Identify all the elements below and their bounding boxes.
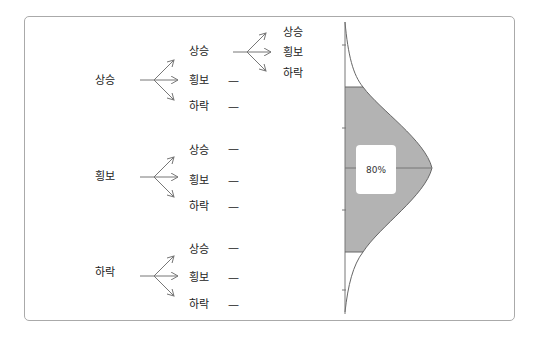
arrows-and-curve: [0, 0, 537, 343]
branch-arrows-icon: [140, 33, 271, 296]
percent-label-box: 80%: [356, 145, 396, 194]
percent-label: 80%: [366, 165, 386, 175]
